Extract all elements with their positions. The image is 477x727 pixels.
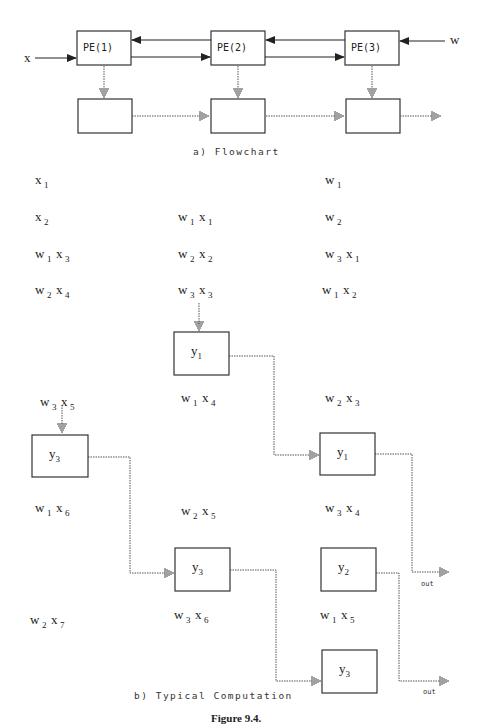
flowchart-caption: a) Flowchart	[193, 146, 280, 157]
term-c2r3: w2x2	[178, 246, 217, 264]
out-label-2: out	[423, 688, 436, 696]
computation-caption: b) Typical Computation	[134, 690, 293, 701]
output-y3c: y3	[339, 661, 350, 679]
term-c3r7: w1x5	[320, 607, 359, 625]
term-c3r4: w1x2	[322, 282, 361, 300]
acc2-box	[211, 99, 265, 133]
figure-caption: Figure 9.4.	[211, 712, 261, 724]
acc3-box	[346, 99, 400, 133]
pe2-label: PE(2)	[217, 42, 247, 53]
term-c2r2: w1x1	[178, 209, 217, 227]
pe1-label: PE(1)	[83, 42, 113, 53]
output-y1a: y1	[191, 343, 202, 361]
term-c2r7: w3x6	[174, 607, 213, 625]
term-c1r5: w3x5	[40, 394, 79, 412]
term-c3r5: w2x3	[325, 390, 364, 408]
term-c2r4: w3x3	[178, 282, 217, 300]
output-y2a: y2	[338, 559, 349, 577]
term-c3r2: w2	[325, 209, 346, 227]
output-y3b: y3	[192, 559, 203, 577]
out-label-1: out	[421, 580, 434, 588]
acc1-box	[78, 99, 132, 133]
term-c1r1: x1	[35, 172, 53, 190]
arrowhead-down	[99, 89, 109, 97]
input-x-label: x	[24, 50, 31, 66]
pe3-label: PE(3)	[351, 42, 381, 53]
term-c1r3: w1x3	[35, 246, 74, 264]
term-c2r5: w1x4	[181, 390, 220, 408]
term-c3r1: w1	[325, 172, 346, 190]
term-c1r4: w2x4	[35, 282, 74, 300]
term-c2r6: w2x5	[181, 503, 220, 521]
term-c1r7: w2x7	[30, 612, 69, 630]
output-y1b: y1	[337, 444, 348, 462]
term-c1r6: w1x6	[35, 500, 74, 518]
term-c3r6: w3x4	[325, 500, 364, 518]
term-c3r3: w3x1	[325, 246, 364, 264]
diagram-canvas	[0, 0, 477, 727]
input-w-label: w	[450, 32, 459, 48]
term-c1r2: x2	[35, 209, 53, 227]
output-y3a: y3	[49, 446, 60, 464]
